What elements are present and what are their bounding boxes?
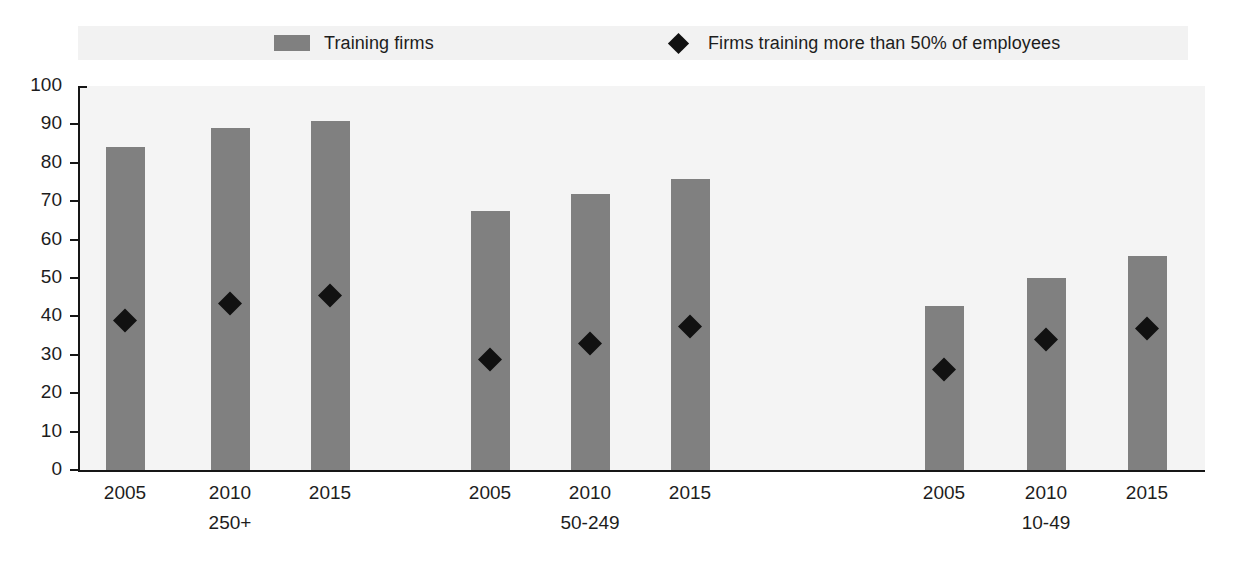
y-tick-label-70: 70 <box>6 189 62 211</box>
legend-item-training-firms: Training firms <box>274 26 434 60</box>
y-tick-10 <box>70 431 80 433</box>
x-axis-line <box>78 470 1205 472</box>
y-axis-top-cap <box>78 86 87 88</box>
y-tick-label-80: 80 <box>6 151 62 173</box>
group-label-250+: 250+ <box>209 512 252 534</box>
y-tick-80 <box>70 162 80 164</box>
chart-legend: Training firms Firms training more than … <box>78 26 1188 60</box>
y-tick-label-10: 10 <box>6 420 62 442</box>
diamond-marker-icon <box>668 32 689 53</box>
legend-item-firms-training-over-50: Firms training more than 50% of employee… <box>669 26 1060 60</box>
group-label-10-49: 10-49 <box>1022 512 1071 534</box>
x-tick-label: 2010 <box>569 482 611 504</box>
y-tick-label-30: 30 <box>6 343 62 365</box>
x-tick-label: 2015 <box>309 482 351 504</box>
y-tick-90 <box>70 123 80 125</box>
x-tick-label: 2010 <box>209 482 251 504</box>
legend-label-training-firms: Training firms <box>324 33 434 54</box>
x-tick-label: 2005 <box>923 482 965 504</box>
bar-training-firms <box>471 211 510 470</box>
x-tick-label: 2005 <box>469 482 511 504</box>
y-tick-label-40: 40 <box>6 304 62 326</box>
y-tick-50 <box>70 277 80 279</box>
y-tick-60 <box>70 239 80 241</box>
y-tick-20 <box>70 392 80 394</box>
x-tick-label: 2010 <box>1025 482 1067 504</box>
bar-training-firms <box>1128 256 1167 470</box>
y-axis-tick-labels: 1009080706050403020100 <box>0 0 62 561</box>
group-label-50-249: 50-249 <box>560 512 619 534</box>
bar-training-firms <box>1027 278 1066 470</box>
y-axis-line <box>78 86 80 472</box>
y-tick-70 <box>70 200 80 202</box>
square-swatch-icon <box>274 35 310 51</box>
x-tick-label: 2015 <box>669 482 711 504</box>
chart-root: Training firms Firms training more than … <box>0 0 1239 561</box>
y-tick-label-0: 0 <box>6 458 62 480</box>
y-tick-label-50: 50 <box>6 266 62 288</box>
bar-training-firms <box>925 306 964 470</box>
y-tick-label-100: 100 <box>6 74 62 96</box>
x-tick-label: 2015 <box>1126 482 1168 504</box>
y-tick-label-60: 60 <box>6 228 62 250</box>
y-tick-0 <box>70 469 80 471</box>
y-tick-label-20: 20 <box>6 381 62 403</box>
y-tick-label-90: 90 <box>6 112 62 134</box>
legend-label-firms-training-over-50: Firms training more than 50% of employee… <box>708 33 1060 54</box>
y-tick-30 <box>70 354 80 356</box>
y-tick-40 <box>70 315 80 317</box>
x-tick-label: 2005 <box>104 482 146 504</box>
